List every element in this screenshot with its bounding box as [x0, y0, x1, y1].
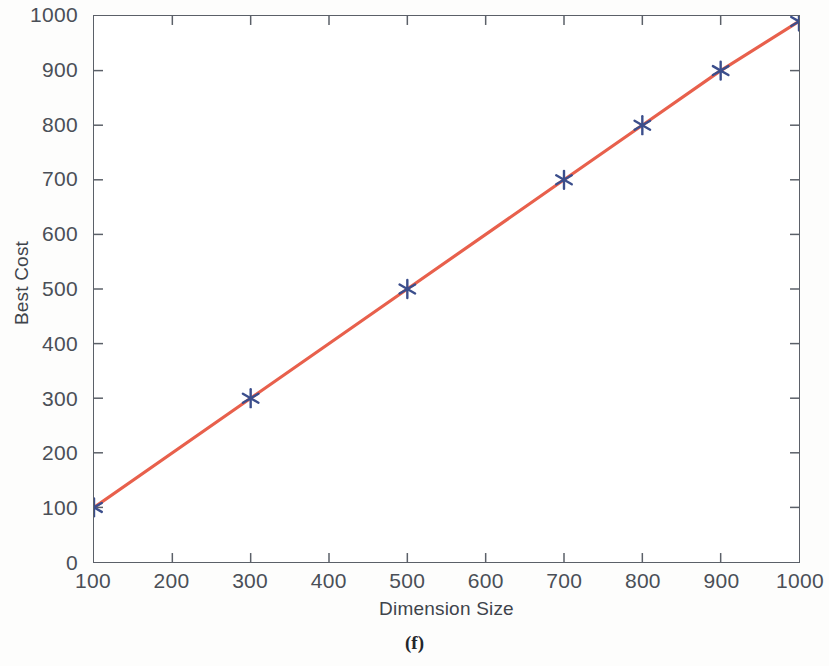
- y-axis-tick-label: 1000: [30, 4, 78, 25]
- series-line-0: [94, 21, 799, 507]
- data-point-marker: [635, 116, 651, 134]
- data-point-marker: [713, 62, 729, 80]
- x-axis-tick-label: 200: [154, 570, 190, 591]
- y-axis-tick-label: 300: [42, 388, 78, 409]
- data-point-marker: [556, 171, 572, 189]
- x-axis-tick-label: 1000: [776, 570, 824, 591]
- y-axis-title: Best Cost: [11, 223, 33, 343]
- y-axis-tick-label: 900: [42, 59, 78, 80]
- x-axis-tick-label: 800: [625, 570, 661, 591]
- plot-canvas: [94, 16, 799, 562]
- plot-area: [93, 15, 800, 563]
- x-axis-tick-label: 900: [703, 570, 739, 591]
- x-axis-tick-labels: 1002003004005006007008009001000: [0, 570, 829, 600]
- y-axis-tick-label: 100: [42, 497, 78, 518]
- x-axis-tick-label: 300: [232, 570, 268, 591]
- data-point-marker: [243, 389, 259, 407]
- x-axis-tick-label: 400: [311, 570, 347, 591]
- y-axis-tick-label: 800: [42, 114, 78, 135]
- x-axis-tick-label: 700: [546, 570, 582, 591]
- y-axis-tick-label: 700: [42, 168, 78, 189]
- y-axis-tick-label: 200: [42, 442, 78, 463]
- y-axis-tick-label: 600: [42, 223, 78, 244]
- figure-caption: (f): [0, 632, 829, 654]
- figure-panel: 01002003004005006007008009001000 Best Co…: [0, 0, 829, 666]
- x-axis-tick-label: 100: [75, 570, 111, 591]
- x-axis-tick-label: 500: [389, 570, 425, 591]
- data-point-marker: [400, 280, 416, 298]
- y-axis-tick-label: 500: [42, 278, 78, 299]
- axis-ticks: [94, 16, 799, 562]
- x-axis-tick-label: 600: [468, 570, 504, 591]
- x-axis-title: Dimension Size: [93, 598, 800, 620]
- y-axis-tick-label: 400: [42, 333, 78, 354]
- data-point-marker: [791, 16, 799, 30]
